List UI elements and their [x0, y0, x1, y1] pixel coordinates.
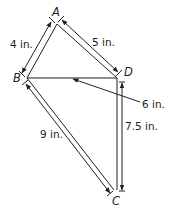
- leader-bd: [73, 79, 140, 102]
- measure-bd: 6 in.: [142, 98, 165, 110]
- quadrilateral-diagram: A B D C 4 in. 5 in. 6 in. 9 in. 7.5 in.: [0, 0, 174, 224]
- vertex-label-c: C: [112, 194, 120, 208]
- measure-ad: 5 in.: [92, 36, 115, 48]
- dimension-bc: [22, 80, 113, 196]
- dimension-dc: [119, 82, 125, 191]
- measure-bc: 9 in.: [40, 128, 63, 140]
- vertex-label-b: B: [13, 71, 21, 85]
- edge-ab: [27, 24, 57, 78]
- vertex-label-a: A: [51, 5, 60, 19]
- vertex-label-d: D: [124, 65, 133, 79]
- measure-dc: 7.5 in.: [125, 120, 158, 132]
- edge-ad: [57, 24, 117, 78]
- measure-ab: 4 in.: [10, 38, 33, 50]
- shape-edges: [27, 24, 117, 190]
